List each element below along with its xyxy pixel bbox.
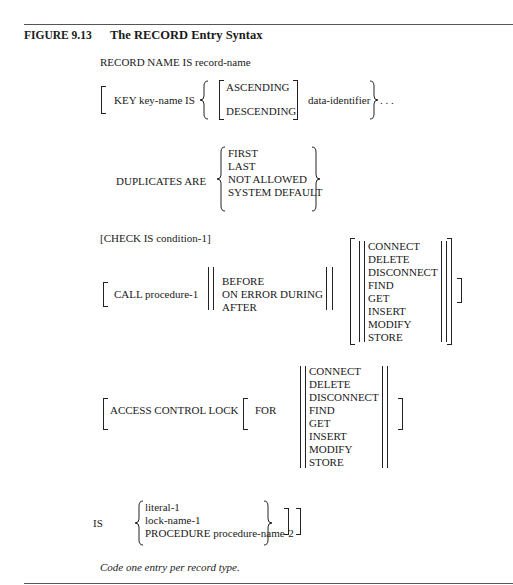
- option-first: FIRST: [228, 147, 322, 160]
- bottom-rule: [24, 583, 513, 584]
- for-bracket-right: [284, 508, 289, 535]
- data-identifier: data-identifier: [308, 94, 370, 107]
- access-operations: CONNECT DELETE DISCONNECT FIND GET INSER…: [309, 365, 379, 469]
- for-bracket-left: [243, 398, 248, 430]
- op-get: GET: [309, 417, 379, 430]
- optional-bracket-left: [103, 398, 108, 430]
- op-find: FIND: [309, 404, 379, 417]
- brace-right: [312, 146, 322, 212]
- choice-bar: [382, 366, 383, 468]
- choice-bar: [364, 241, 365, 342]
- timing-on-error-during: ON ERROR DURING: [222, 288, 323, 301]
- duplicates-options: FIRST LAST NOT ALLOWED SYSTEM DEFAULT: [228, 147, 322, 199]
- choice-bar: [213, 267, 214, 310]
- option-last: LAST: [228, 160, 322, 173]
- optional-bracket-left: [101, 86, 106, 114]
- figure-label: FIGURE 9.13: [24, 29, 92, 41]
- duplicates-prefix: DUPLICATES ARE: [116, 175, 206, 188]
- op-delete: DELETE: [368, 253, 438, 266]
- brace-right: [370, 80, 380, 120]
- figure-title: The RECORD Entry Syntax: [110, 28, 262, 43]
- call-operations: CONNECT DELETE DISCONNECT FIND GET INSER…: [368, 240, 438, 344]
- op-store: STORE: [368, 331, 438, 344]
- choice-bar: [300, 366, 301, 468]
- op-modify: MODIFY: [309, 443, 379, 456]
- check-clause: [CHECK IS condition-1]: [100, 232, 211, 245]
- top-rule: [24, 24, 513, 25]
- op-insert: INSERT: [309, 430, 379, 443]
- op-get: GET: [368, 292, 438, 305]
- option-system-default: SYSTEM DEFAULT: [228, 186, 322, 199]
- op-store: STORE: [309, 456, 379, 469]
- call-prefix: CALL procedure-1: [114, 288, 198, 301]
- choice-bar: [305, 366, 306, 468]
- key-prefix: KEY key-name IS: [114, 94, 195, 107]
- operations-bracket-left: [350, 238, 355, 345]
- order-ascending: ASCENDING: [226, 81, 290, 94]
- op-find: FIND: [368, 279, 438, 292]
- choice-bar: [387, 366, 388, 468]
- choice-bar: [332, 267, 333, 310]
- optional-bracket-right: [457, 278, 462, 303]
- optional-bracket-right: [398, 398, 403, 430]
- choice-bracket-left: [219, 80, 224, 120]
- op-disconnect: DISCONNECT: [309, 391, 379, 404]
- op-modify: MODIFY: [368, 318, 438, 331]
- optional-bracket-left: [103, 282, 108, 307]
- access-bracket-right: [296, 508, 301, 535]
- choice-bracket-right: [293, 80, 298, 120]
- for-label: FOR: [255, 404, 276, 417]
- op-connect: CONNECT: [309, 365, 379, 378]
- op-connect: CONNECT: [368, 240, 438, 253]
- choice-bar: [326, 267, 327, 310]
- brace-left: [217, 146, 227, 212]
- brace-right: [264, 500, 274, 546]
- timing-before: BEFORE: [222, 275, 323, 288]
- access-prefix: ACCESS CONTROL LOCK: [110, 404, 239, 417]
- timing-options: BEFORE ON ERROR DURING AFTER: [222, 275, 323, 314]
- choice-bar: [359, 241, 360, 342]
- op-insert: INSERT: [368, 305, 438, 318]
- op-disconnect: DISCONNECT: [368, 266, 438, 279]
- repeat-ellipsis: . . .: [380, 94, 394, 107]
- is-prefix: IS: [93, 517, 103, 530]
- choice-bar: [208, 267, 209, 310]
- record-name-clause: RECORD NAME IS record-name: [100, 56, 251, 69]
- brace-left: [135, 500, 145, 546]
- operations-bracket-right: [447, 238, 452, 345]
- order-descending: DESCENDING: [226, 105, 296, 118]
- timing-after: AFTER: [222, 301, 323, 314]
- option-not-allowed: NOT ALLOWED: [228, 173, 322, 186]
- op-delete: DELETE: [309, 378, 379, 391]
- footnote: Code one entry per record type.: [100, 561, 240, 573]
- choice-bar: [441, 241, 442, 342]
- brace-left: [200, 80, 210, 120]
